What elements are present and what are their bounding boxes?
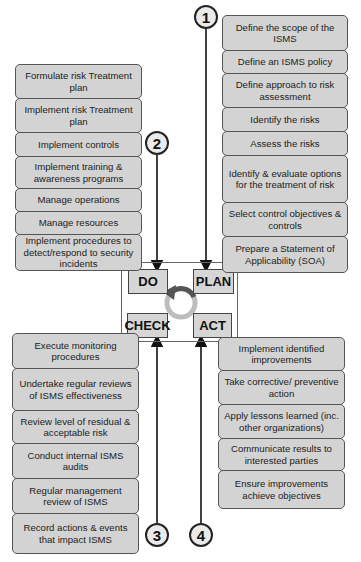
plan-step: Select control objectives & controls	[222, 202, 348, 237]
act-step: Ensure improvements achieve objectives	[218, 470, 345, 509]
plan-step: Prepare a Statement of Applicability (SO…	[222, 236, 348, 273]
phase-do-label: DO	[138, 274, 158, 289]
phase-check-label: CHECK	[124, 318, 170, 333]
phase-do: DO	[128, 269, 168, 294]
plan-step: Define the scope of the ISMS	[222, 15, 348, 51]
act-step: Apply lessons learned (inc. other organi…	[218, 404, 345, 439]
check-step: Record actions & events that impact ISMS	[12, 513, 139, 554]
plan-step: Assess the risks	[222, 131, 348, 156]
do-step: Manage operations	[15, 188, 142, 212]
plan-step: Define an ISMS policy	[222, 50, 348, 74]
check-step: Execute monitoring procedures	[12, 333, 139, 369]
act-steps: Implement identified improvements Take c…	[218, 337, 345, 509]
step-number-2: 2	[145, 131, 169, 155]
act-step: Take corrective/ preventive action	[218, 370, 345, 405]
do-step: Implement procedures to detect/respond t…	[15, 234, 142, 271]
act-step: Implement identified improvements	[218, 337, 345, 371]
step-number-3: 3	[145, 523, 169, 547]
do-step: Implement controls	[15, 132, 142, 157]
do-step: Manage resources	[15, 211, 142, 235]
plan-step: Identify the risks	[222, 107, 348, 132]
do-step: Formulate risk Treatment plan	[15, 64, 142, 99]
step-number-4: 4	[189, 523, 213, 547]
check-step: Conduct internal ISMS audits	[12, 443, 139, 479]
plan-steps: Define the scope of the ISMS Define an I…	[222, 15, 348, 273]
check-step: Regular management review of ISMS	[12, 478, 139, 514]
phase-act: ACT	[193, 313, 232, 338]
check-step: Review level of residual & acceptable ri…	[12, 410, 139, 444]
do-step: Implement risk Treatment plan	[15, 98, 142, 133]
step-number-1: 1	[194, 5, 218, 29]
do-steps: Formulate risk Treatment plan Implement …	[15, 64, 142, 271]
check-steps: Execute monitoring procedures Undertake …	[12, 333, 139, 554]
plan-step: Identify & evaluate options for the trea…	[222, 155, 348, 203]
act-step: Communicate results to interested partie…	[218, 438, 345, 471]
check-step: Undertake regular reviews of ISMS effect…	[12, 368, 139, 411]
phase-plan-label: PLAN	[196, 274, 231, 289]
do-step: Implement training & awareness programs	[15, 156, 142, 189]
phase-act-label: ACT	[199, 318, 226, 333]
plan-step: Define approach to risk assessment	[222, 73, 348, 108]
